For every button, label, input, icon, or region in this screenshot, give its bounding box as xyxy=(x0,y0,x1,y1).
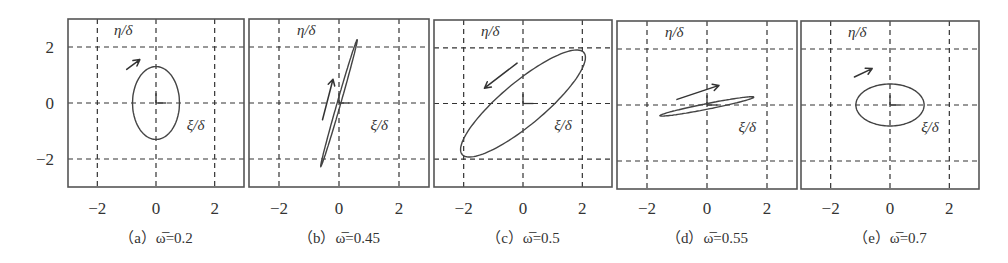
panel-b: η/δξ/δ−202（b）ω̅=0.45 xyxy=(249,19,429,246)
x-tick-label: 0 xyxy=(703,199,712,218)
eta-axis-label: η/δ xyxy=(297,22,317,38)
x-tick-label: 0 xyxy=(519,199,528,218)
eta-axis-label: η/δ xyxy=(665,24,685,40)
x-tick-label: 2 xyxy=(395,199,404,218)
x-tick-label: −2 xyxy=(455,199,473,218)
panel-a: η/δξ/δ−20220−2（a）ω̅=0.2 xyxy=(36,19,244,246)
x-tick-label: 0 xyxy=(886,199,895,218)
eta-axis-label: η/δ xyxy=(481,23,501,39)
direction-arrow-icon xyxy=(323,79,335,120)
x-tick-label: 2 xyxy=(578,199,587,218)
panel-c: η/δξ/δ−202（c）ω̅=0.5 xyxy=(434,20,612,246)
direction-arrow-icon xyxy=(677,84,719,99)
figure-five-orbit-panels: η/δξ/δ−20220−2（a）ω̅=0.2η/δξ/δ−202（b）ω̅=0… xyxy=(0,0,1008,263)
panel-d: η/δξ/δ−202（d）ω̅=0.55 xyxy=(617,21,797,246)
direction-arrow-icon xyxy=(127,60,140,70)
x-tick-label: 2 xyxy=(210,199,219,218)
xi-axis-label: ξ/δ xyxy=(554,117,573,133)
panel-caption: （a）ω̅=0.2 xyxy=(119,230,193,246)
chart-canvas: η/δξ/δ−20220−2（a）ω̅=0.2η/δξ/δ−202（b）ω̅=0… xyxy=(0,0,1008,263)
panel-caption: （d）ω̅=0.55 xyxy=(666,230,748,246)
y-tick-label: 0 xyxy=(46,94,55,113)
xi-axis-label: ξ/δ xyxy=(921,119,940,135)
xi-axis-label: ξ/δ xyxy=(739,119,758,135)
xi-axis-label: ξ/δ xyxy=(371,117,390,133)
x-tick-label: −2 xyxy=(638,199,656,218)
eta-axis-label: η/δ xyxy=(114,22,134,38)
x-tick-label: 0 xyxy=(152,199,161,218)
x-tick-label: 0 xyxy=(335,199,344,218)
eta-axis-label: η/δ xyxy=(848,24,868,40)
x-tick-label: −2 xyxy=(822,199,840,218)
y-tick-label: 2 xyxy=(46,38,55,57)
x-tick-label: 2 xyxy=(763,199,772,218)
panel-caption: （c）ω̅=0.5 xyxy=(486,230,560,246)
panel-caption: （b）ω̅=0.45 xyxy=(298,230,380,246)
x-tick-label: −2 xyxy=(88,199,106,218)
xi-axis-label: ξ/δ xyxy=(187,117,206,133)
panel-e: η/δξ/δ−202（e）ω̅=0.7 xyxy=(801,21,979,246)
panel-caption: （e）ω̅=0.7 xyxy=(853,230,927,246)
direction-arrow-icon xyxy=(854,68,872,77)
y-tick-label: −2 xyxy=(36,150,54,169)
x-tick-label: 2 xyxy=(945,199,954,218)
x-tick-label: −2 xyxy=(270,199,288,218)
